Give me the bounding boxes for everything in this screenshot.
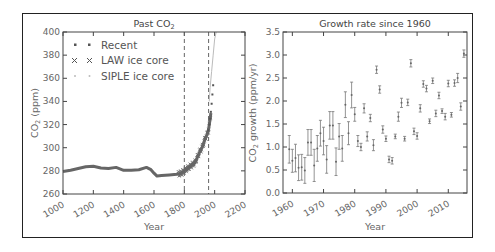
recent-marker (211, 93, 213, 95)
right-axes-ticks: 1960197019801990200020100.00.51.01.52.02… (266, 27, 467, 219)
growth-point (385, 138, 387, 140)
growth-point (294, 157, 296, 159)
growth-point (329, 124, 331, 126)
y-tick-label: 0.5 (266, 165, 280, 175)
x-tick-label: 1960 (271, 198, 296, 218)
growth-point (298, 167, 300, 169)
y-tick-label: 400 (43, 27, 60, 37)
growth-point (441, 110, 443, 112)
x-tick-label: 2000 (193, 199, 218, 219)
growth-point (326, 158, 328, 160)
x-tick-label: 1600 (132, 199, 157, 219)
growth-point (304, 169, 306, 171)
recent-marker (210, 111, 212, 113)
right-title: Growth rate since 1960 (319, 18, 431, 29)
y-tick-label: 0.0 (266, 188, 281, 198)
growth-point (416, 135, 418, 137)
y-tick-label: 1.0 (266, 142, 281, 152)
growth-point (447, 83, 449, 85)
growth-point (366, 135, 368, 137)
left-title: Past CO2 (133, 18, 174, 31)
growth-point (323, 140, 325, 142)
growth-point (319, 132, 321, 134)
growth-point (288, 148, 290, 150)
x-tick-label: 1800 (162, 199, 187, 219)
growth-point (376, 69, 378, 71)
growth-point (460, 106, 462, 108)
y-tick-label: 3.0 (266, 50, 281, 60)
growth-point (388, 158, 390, 160)
growth-point (360, 146, 362, 148)
y-tick-label: 380 (43, 50, 60, 60)
growth-point (394, 135, 396, 137)
y-tick-label: 320 (43, 120, 60, 130)
x-tick-label: 1980 (333, 198, 358, 218)
growth-point (444, 116, 446, 118)
growth-point (397, 116, 399, 118)
x-tick-label: 2010 (426, 198, 451, 218)
y-tick-label: 360 (43, 73, 60, 83)
x-tick-label: 1990 (364, 198, 389, 218)
growth-point (407, 101, 409, 103)
growth-point (391, 160, 393, 162)
x-tick-label: 1970 (302, 198, 327, 218)
right-axes-box (283, 32, 467, 193)
y-tick-label: 300 (43, 143, 60, 153)
growth-point (310, 141, 312, 143)
right-data-series (288, 50, 466, 183)
growth-point (432, 80, 434, 82)
growth-point (410, 62, 412, 64)
figure: Past CO2 1000120014001600180020002200260… (0, 0, 495, 252)
growth-point (351, 94, 353, 96)
y-tick-label: 2.5 (266, 73, 280, 83)
past-co2-plot: Past CO2 1000120014001600180020002200260… (29, 18, 248, 232)
legend-item-siple: SIPLE ice core (74, 70, 174, 82)
growth-point (435, 112, 437, 114)
growth-point (457, 77, 459, 79)
growth-point (363, 107, 365, 109)
growth-point (291, 160, 293, 162)
left-xlabel: Year (143, 221, 164, 232)
x-tick-label: 1000 (41, 199, 66, 219)
growth-point (438, 94, 440, 96)
y-tick-label: 280 (43, 166, 60, 176)
svg-text:SIPLE ice core: SIPLE ice core (101, 70, 174, 82)
right-xlabel: Year (364, 221, 385, 232)
growth-point (450, 114, 452, 116)
growth-point (463, 53, 465, 55)
y-tick-label: 1.5 (266, 119, 280, 129)
growth-point (316, 147, 318, 149)
legend-item-recent: Recent (74, 39, 137, 51)
y-tick-label: 2.0 (266, 96, 281, 106)
growth-point (425, 88, 427, 90)
growth-point (454, 82, 456, 84)
growth-rate-plot: Growth rate since 1960 19601970198019902… (247, 18, 467, 232)
recent-marker (211, 103, 213, 105)
x-tick-label: 2000 (395, 198, 420, 218)
svg-text:Recent: Recent (101, 39, 137, 51)
x-tick-label: 1400 (102, 199, 127, 219)
growth-point (419, 107, 421, 109)
y-tick-label: 3.5 (266, 27, 280, 37)
growth-point (301, 166, 303, 168)
growth-point (307, 141, 309, 143)
siple-ice-core-line (209, 32, 216, 101)
left-ylabel: CO2 (ppm) (29, 88, 42, 138)
growth-point (347, 132, 349, 134)
right-ylabel: CO2 growth (ppm/yr) (247, 64, 260, 163)
growth-point (338, 135, 340, 137)
recent-marker (212, 84, 214, 86)
growth-point (332, 124, 334, 126)
growth-point (344, 104, 346, 106)
svg-text:LAW ice core: LAW ice core (101, 54, 169, 66)
growth-point (357, 140, 359, 142)
x-tick-label: 2200 (223, 199, 248, 219)
growth-point (429, 120, 431, 122)
growth-point (341, 147, 343, 149)
growth-point (379, 89, 381, 91)
recent-marker (207, 129, 209, 131)
y-tick-label: 260 (43, 189, 60, 199)
growth-point (413, 130, 415, 132)
growth-point (422, 83, 424, 85)
growth-point (369, 117, 371, 119)
